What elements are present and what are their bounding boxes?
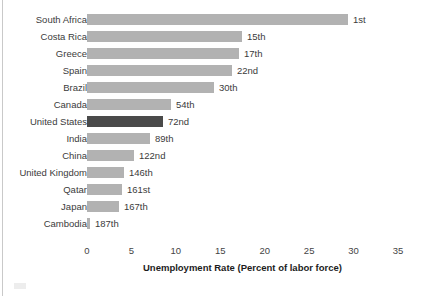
category-label: Brazil (0, 79, 87, 96)
x-axis-line (87, 243, 398, 244)
bar (87, 150, 134, 161)
category-label: Canada (0, 96, 87, 113)
bar (87, 201, 119, 212)
bar-value-label: 30th (219, 79, 238, 96)
plot-area: South Africa1stCosta Rica15thGreece17thS… (0, 0, 424, 296)
category-label: Greece (0, 45, 87, 62)
x-tick-label: 30 (334, 245, 374, 256)
x-tick-label: 5 (111, 245, 151, 256)
chart-bar-row: China122nd (0, 147, 424, 164)
bar (87, 167, 124, 178)
bar-value-label: 15th (247, 28, 266, 45)
category-label: India (0, 130, 87, 147)
chart-bar-row: Spain22nd (0, 62, 424, 79)
category-label: South Africa (0, 11, 87, 28)
x-tick-label: 35 (378, 245, 418, 256)
bar (87, 133, 150, 144)
bar-value-label: 146th (129, 164, 153, 181)
chart-bar-row: India89th (0, 130, 424, 147)
bar-value-label: 54th (176, 96, 195, 113)
chart-bar-row: South Africa1st (0, 11, 424, 28)
chart-bar-row: Greece17th (0, 45, 424, 62)
x-tick-label: 20 (245, 245, 285, 256)
x-axis-title: Unemployment Rate (Percent of labor forc… (87, 262, 398, 273)
bar-value-label: 167th (124, 198, 148, 215)
bar-highlighted (87, 116, 163, 127)
bar (87, 14, 348, 25)
category-label: United States (0, 113, 87, 130)
bar-value-label: 17th (244, 45, 263, 62)
category-label: China (0, 147, 87, 164)
bar-value-label: 72nd (168, 113, 189, 130)
bar (87, 218, 90, 229)
chart-bar-row: Cambodia187th (0, 215, 424, 232)
chart-bar-row: Canada54th (0, 96, 424, 113)
bar (87, 31, 242, 42)
category-label: Cambodia (0, 215, 87, 232)
bar (87, 99, 171, 110)
category-label: United Kingdom (0, 164, 87, 181)
chart-bar-row: Japan167th (0, 198, 424, 215)
bar (87, 184, 122, 195)
chart-bar-row: Qatar161st (0, 181, 424, 198)
chart-figure: South Africa1stCosta Rica15thGreece17thS… (0, 0, 424, 296)
category-label: Japan (0, 198, 87, 215)
bar-value-label: 1st (353, 11, 366, 28)
x-tick-label: 25 (289, 245, 329, 256)
bar-value-label: 187th (95, 215, 119, 232)
bar (87, 82, 214, 93)
x-tick-label: 0 (67, 245, 107, 256)
bar-value-label: 161st (127, 181, 150, 198)
chart-bar-row: Costa Rica15th (0, 28, 424, 45)
bar-value-label: 22nd (237, 62, 258, 79)
bar (87, 65, 232, 76)
category-label: Spain (0, 62, 87, 79)
scan-artifact (14, 283, 26, 289)
x-tick-label: 10 (156, 245, 196, 256)
x-tick-label: 15 (200, 245, 240, 256)
bar (87, 48, 239, 59)
category-label: Qatar (0, 181, 87, 198)
bar-value-label: 89th (155, 130, 174, 147)
bar-value-label: 122nd (139, 147, 165, 164)
chart-bar-row: United Kingdom146th (0, 164, 424, 181)
chart-bar-row: United States72nd (0, 113, 424, 130)
category-label: Costa Rica (0, 28, 87, 45)
chart-bar-row: Brazil30th (0, 79, 424, 96)
